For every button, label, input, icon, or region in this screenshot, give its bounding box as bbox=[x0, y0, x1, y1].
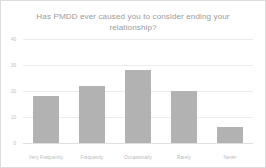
y-axis-tick-label: 30 bbox=[0, 63, 16, 68]
bar-frequently bbox=[79, 86, 105, 143]
x-axis-tick: Very Frequently bbox=[23, 145, 69, 163]
x-axis-tick-label: Rarely bbox=[177, 155, 191, 160]
x-axis-tick-label: Never bbox=[223, 155, 236, 160]
bar-slot bbox=[23, 39, 69, 143]
y-axis-tick-label: 20 bbox=[0, 89, 16, 94]
y-axis-tick-label: 0 bbox=[0, 141, 16, 146]
bar-slot bbox=[69, 39, 115, 143]
y-axis-tick-label: 40 bbox=[0, 37, 16, 42]
y-axis-tick-label: 10 bbox=[0, 115, 16, 120]
x-axis-tick-label: Frequently bbox=[80, 155, 103, 160]
x-axis-tick: Frequently bbox=[69, 145, 115, 163]
x-axis-line bbox=[23, 143, 253, 144]
x-axis-tick-label: Occasionally bbox=[124, 155, 152, 160]
bar-slot bbox=[115, 39, 161, 143]
bar-slot bbox=[207, 39, 253, 143]
bar-occasionally bbox=[125, 70, 151, 143]
x-axis-tick: Occasionally bbox=[115, 145, 161, 163]
bar-rarely bbox=[171, 91, 197, 143]
x-axis: Very Frequently Frequently Occasionally … bbox=[23, 145, 253, 163]
bar-never bbox=[217, 127, 243, 143]
chart-title: Has PMDD ever caused you to consider end… bbox=[35, 11, 231, 33]
x-axis-tick: Rarely bbox=[161, 145, 207, 163]
bar-very-frequently bbox=[33, 96, 59, 143]
bar-slot bbox=[161, 39, 207, 143]
chart-container: Has PMDD ever caused you to consider end… bbox=[0, 0, 266, 168]
x-axis-tick: Never bbox=[207, 145, 253, 163]
bar-series bbox=[23, 39, 253, 143]
x-axis-tick-label: Very Frequently bbox=[29, 155, 63, 160]
